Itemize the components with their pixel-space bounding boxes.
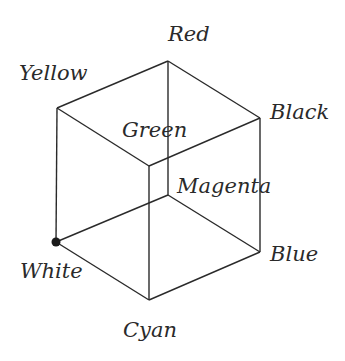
edge-red-black — [168, 61, 260, 118]
label-blue: Blue — [269, 242, 318, 266]
color-cube-diagram: Red Yellow Black Green Magenta White Blu… — [0, 0, 345, 361]
edge-yellow-white — [56, 108, 57, 242]
label-magenta: Magenta — [176, 174, 271, 198]
edge-magenta-blue — [168, 195, 260, 252]
label-white: White — [20, 259, 83, 283]
label-red: Red — [167, 22, 210, 46]
label-yellow: Yellow — [19, 61, 88, 85]
label-cyan: Cyan — [123, 318, 177, 342]
edge-blue-cyan — [149, 252, 260, 300]
white-origin-dot — [52, 238, 61, 247]
label-black: Black — [269, 100, 329, 124]
label-green: Green — [122, 118, 187, 142]
edge-white-magenta — [56, 195, 168, 242]
